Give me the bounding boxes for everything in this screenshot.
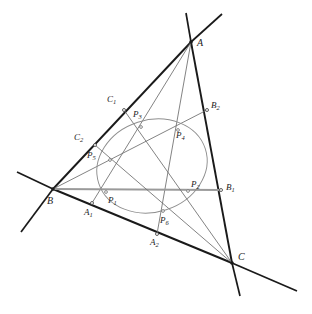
vertex-C-dot — [230, 261, 234, 265]
ray-beyond-A-toward-C — [191, 14, 222, 42]
ray-beyond-B-toward-A — [17, 172, 53, 189]
label-vertex-C: C — [238, 252, 245, 262]
conic-ellipse — [85, 105, 220, 227]
geometry-figure: A B C A1 A2 B1 B2 C1 C2 P1 P2 P3 P4 P5 P… — [0, 0, 312, 314]
point-B1-dot — [220, 189, 223, 192]
label-point-P3: P3 — [133, 110, 142, 119]
cevian-A-A1 — [92, 42, 191, 203]
label-point-C2: C2 — [74, 133, 83, 142]
label-point-P5: P5 — [87, 151, 96, 160]
label-point-P4: P4 — [176, 131, 185, 140]
triangle-sides — [53, 42, 232, 263]
label-point-A1: A1 — [84, 208, 93, 217]
ray-beyond-A-toward-B — [186, 13, 191, 42]
label-point-B1: B1 — [226, 183, 235, 192]
point-C1-dot — [123, 109, 126, 112]
point-C2-dot — [94, 144, 97, 147]
extension-rays — [17, 13, 297, 296]
label-point-A2: A2 — [150, 238, 159, 247]
point-A2-dot — [156, 233, 159, 236]
side-BC — [53, 189, 232, 263]
figure-canvas — [0, 0, 312, 314]
cevian-B-B2 — [53, 110, 207, 189]
label-point-P2: P2 — [191, 180, 200, 189]
side-AB — [53, 42, 191, 189]
point-A1-dot — [91, 202, 94, 205]
point-P1-dot — [105, 191, 108, 194]
point-P3-dot — [140, 126, 143, 129]
label-point-B2: B2 — [211, 101, 220, 110]
vertex-B-dot — [51, 187, 55, 191]
cevian-lines — [53, 42, 232, 263]
point-P6-dot — [162, 210, 165, 213]
ray-beyond-C-toward-B — [232, 263, 297, 291]
side-CA — [191, 42, 232, 263]
ray-beyond-C-toward-A — [232, 263, 240, 296]
label-vertex-B: B — [47, 196, 53, 206]
label-point-P1: P1 — [108, 196, 117, 205]
vertex-A-dot — [189, 40, 193, 44]
point-B2-dot — [206, 109, 209, 112]
label-point-P6: P6 — [160, 216, 169, 225]
point-P2-dot — [187, 190, 190, 193]
point-P5-dot — [109, 159, 112, 162]
cevian-A-A2 — [157, 42, 191, 234]
label-vertex-A: A — [197, 38, 203, 48]
label-point-C1: C1 — [107, 95, 116, 104]
